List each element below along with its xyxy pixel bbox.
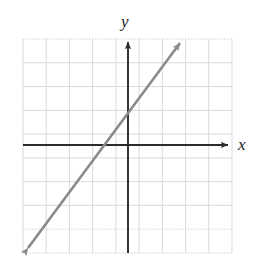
y-axis-label: y — [121, 13, 129, 30]
coordinate-plane-figure: y x — [0, 0, 258, 276]
graph-page: y x — [0, 0, 258, 276]
axes — [23, 42, 228, 253]
coordinate-plane-svg — [0, 0, 258, 276]
x-axis-label: x — [238, 136, 246, 153]
